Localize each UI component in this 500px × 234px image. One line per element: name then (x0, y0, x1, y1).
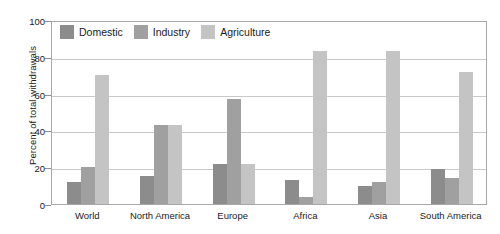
bar-group (213, 22, 255, 204)
gridline (52, 169, 486, 170)
y-axis-tick-label: 60 (9, 89, 45, 100)
bar-agriculture-africa[interactable] (313, 51, 327, 204)
bar-domestic-north-america[interactable] (140, 176, 154, 204)
legend-item-agriculture[interactable]: Agriculture (201, 25, 270, 39)
y-axis-tick-label: 40 (9, 126, 45, 137)
x-axis-label-south-america: South America (420, 210, 482, 221)
bar-group (358, 22, 400, 204)
gridline (52, 132, 486, 133)
y-axis-tick-label: 0 (9, 200, 45, 211)
bar-industry-africa[interactable] (299, 197, 313, 204)
bar-agriculture-world[interactable] (95, 75, 109, 204)
bar-group (67, 22, 109, 204)
bar-industry-world[interactable] (81, 167, 95, 204)
bar-industry-europe[interactable] (227, 99, 241, 204)
legend-item-industry[interactable]: Industry (134, 25, 190, 39)
bar-domestic-africa[interactable] (285, 180, 299, 204)
y-axis-tick-mark (45, 205, 51, 206)
bar-domestic-asia[interactable] (358, 186, 372, 204)
legend-label-agriculture: Agriculture (220, 26, 270, 38)
legend: DomesticIndustryAgriculture (60, 25, 270, 39)
bar-industry-north-america[interactable] (154, 125, 168, 204)
bar-chart: Percent of total withdrawals 02040608010… (0, 0, 500, 234)
x-axis-label-europe: Europe (217, 210, 248, 221)
x-axis-label-asia: Asia (369, 210, 387, 221)
gridline (52, 96, 486, 97)
plot-area (51, 21, 487, 205)
bar-group (285, 22, 327, 204)
legend-swatch-domestic (60, 25, 74, 39)
bar-agriculture-south-america[interactable] (459, 72, 473, 204)
bar-group (140, 22, 182, 204)
bar-agriculture-asia[interactable] (386, 51, 400, 204)
x-axis-label-world: World (75, 210, 100, 221)
legend-item-domestic[interactable]: Domestic (60, 25, 123, 39)
bar-domestic-world[interactable] (67, 182, 81, 204)
bar-agriculture-europe[interactable] (241, 164, 255, 204)
y-axis-tick-label: 20 (9, 163, 45, 174)
legend-label-domestic: Domestic (79, 26, 123, 38)
bar-agriculture-north-america[interactable] (168, 125, 182, 204)
bar-domestic-europe[interactable] (213, 164, 227, 204)
gridline (52, 59, 486, 60)
bar-industry-south-america[interactable] (445, 178, 459, 204)
bar-industry-asia[interactable] (372, 182, 386, 204)
legend-swatch-industry (134, 25, 148, 39)
y-axis-tick-label: 100 (9, 16, 45, 27)
legend-swatch-agriculture (201, 25, 215, 39)
x-axis-label-north-america: North America (130, 210, 190, 221)
bar-domestic-south-america[interactable] (431, 169, 445, 204)
legend-label-industry: Industry (153, 26, 190, 38)
y-axis-tick-label: 80 (9, 52, 45, 63)
x-axis-label-africa: Africa (293, 210, 317, 221)
bar-group (431, 22, 473, 204)
